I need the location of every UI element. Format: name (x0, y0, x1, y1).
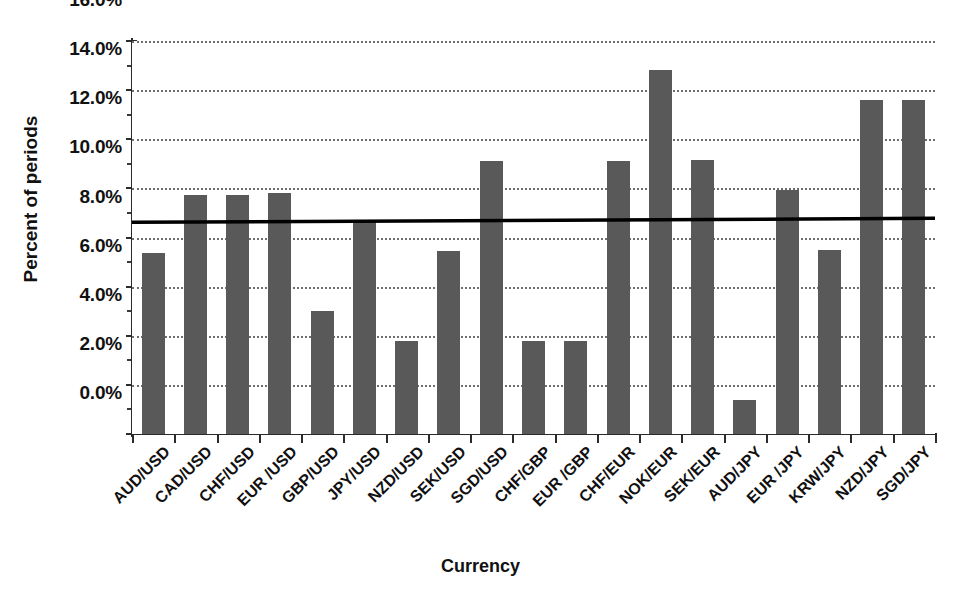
x-axis-tick (301, 434, 303, 443)
bar (480, 161, 503, 434)
y-axis-tick-labels: 0.0%2.0%4.0%6.0%8.0%10.0%12.0%14.0%16.0% (10, 0, 122, 393)
x-axis-tick (428, 434, 430, 443)
x-axis-tick (850, 434, 852, 443)
bar (776, 190, 799, 434)
x-axis-tick (174, 434, 176, 443)
bar (564, 341, 587, 434)
y-axis-tick-label: 12.0% (18, 88, 122, 107)
y-axis-tick-label: 10.0% (18, 137, 122, 156)
bar (818, 250, 841, 434)
x-axis-tick (259, 434, 261, 443)
x-axis-tick (893, 434, 895, 443)
x-axis-category-labels: AUD/USDCAD/USDCHF/USDEUR /USDGBP/USDJPY/… (0, 443, 961, 548)
x-axis-title: Currency (0, 556, 961, 577)
bar (437, 251, 460, 434)
x-axis-tick (343, 434, 345, 443)
bar (733, 400, 756, 434)
y-axis-tick-label: 2.0% (18, 334, 122, 353)
bar (311, 311, 334, 434)
x-axis-tick (935, 434, 937, 443)
y-axis-tick-label: 8.0% (18, 187, 122, 206)
bar-chart: Percent of periods 0.0%2.0%4.0%6.0%8.0%1… (0, 0, 961, 590)
y-axis-tick-label: 14.0% (18, 39, 122, 58)
bar (226, 195, 249, 434)
x-axis-tick (766, 434, 768, 443)
x-axis-tick (724, 434, 726, 443)
x-axis-tick (132, 434, 134, 443)
bar (607, 161, 630, 434)
bar (649, 70, 672, 434)
bar (860, 100, 883, 434)
bars-layer (132, 41, 935, 434)
x-axis-tick (639, 434, 641, 443)
y-axis-tick-label: 16.0% (18, 0, 122, 9)
bar (395, 341, 418, 434)
bar (184, 195, 207, 434)
x-axis-tick (555, 434, 557, 443)
x-axis-tick (808, 434, 810, 443)
y-axis-tick-label: 0.0% (18, 383, 122, 402)
bar (268, 193, 291, 434)
bar (691, 160, 714, 434)
x-axis-tick (470, 434, 472, 443)
x-axis-tick (512, 434, 514, 443)
bar (522, 341, 545, 434)
x-axis-tick (386, 434, 388, 443)
x-axis-tick (597, 434, 599, 443)
x-axis-tick (681, 434, 683, 443)
bar (142, 253, 165, 434)
plot-area (132, 41, 935, 434)
x-axis-tick (217, 434, 219, 443)
y-axis-tick-label: 6.0% (18, 236, 122, 255)
bar (353, 220, 376, 434)
y-axis-tick-label: 4.0% (18, 285, 122, 304)
bar (902, 100, 925, 434)
